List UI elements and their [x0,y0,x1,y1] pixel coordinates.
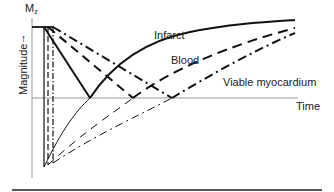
series-label-infarct: Infarct [154,30,185,41]
y-axis-label: Magnitude ↑ [18,35,29,95]
series-label-blood: Blood [171,55,199,66]
y-axis-symbol: Mz [25,3,38,15]
inversion-recovery-diagram: Mz Magnitude ↑ Time Infarct Blood Viable… [0,0,334,192]
series-viable-myocardium [53,27,295,163]
series-label-viable-myocardium: Viable myocardium [223,77,316,88]
series-infarct [44,20,295,167]
up-arrow-icon: ↑ [21,32,27,43]
x-axis-label: Time [296,101,320,112]
series-blood [48,27,295,165]
